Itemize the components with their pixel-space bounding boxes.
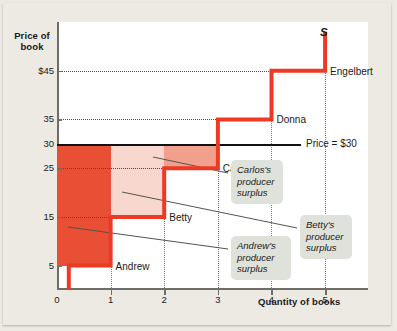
figure-root: Price ofbook Quantity of books $45353025… [0,0,397,331]
gridline-h-35 [57,119,218,120]
y-tick-35: 35 [12,113,54,124]
y-tick-mark [57,168,62,170]
y-axis-title: Price ofbook [10,30,54,52]
surplus-region-andrew [57,144,111,266]
point-label-andrew: Andrew [116,261,150,272]
gridline-h-25 [57,168,164,169]
y-tick-mark [57,119,62,121]
point-label-betty: Betty [169,212,192,223]
gridline-v-1 [111,266,112,290]
y-tick-label: 15 [18,211,54,222]
y-tick-label: 35 [18,113,54,124]
x-tick-mark [325,290,327,295]
gridline-h-45 [57,71,271,72]
x-tick-1: 1 [101,294,121,305]
x-tick-mark [218,290,220,295]
callout-carlos-surplus: Carlos's producer surplus [231,160,283,204]
y-tick-45: $45 [12,65,54,76]
x-tick-0: 0 [47,294,67,305]
point-label-donna: Donna [276,114,305,125]
y-tick-mark [57,266,62,268]
y-tick-label: 25 [18,162,54,173]
y-tick-label: 5 [18,260,54,271]
surplus-region-carlos [164,144,218,168]
x-tick-mark [271,290,273,295]
supply-curve-label: S [320,26,328,38]
callout-andrew-surplus: Andrew's producer surplus [231,236,291,280]
y-tick-mark [57,217,62,219]
y-tick-label: 30 [18,138,54,149]
y-tick-mark [57,71,62,73]
x-tick-2: 2 [154,294,174,305]
gridline-v-3 [218,168,219,290]
y-tick-30: 30 [12,138,54,149]
surplus-region-betty [111,144,165,217]
market-price-label: Price = $30 [306,138,357,149]
point-label-engelbert: Engelbert [330,66,373,77]
y-tick-label: $45 [18,65,54,76]
y-tick-5: 5 [12,260,54,271]
y-tick-15: 15 [12,211,54,222]
x-tick-mark [111,290,113,295]
callout-betty-surplus: Betty's producer surplus [300,215,352,259]
market-price-line [57,144,301,146]
x-tick-mark [164,290,166,295]
y-tick-25: 25 [12,162,54,173]
gridline-v-2 [164,217,165,290]
x-tick-3: 3 [208,294,228,305]
x-tick-5: 5 [315,294,335,305]
gridline-h-15 [57,217,111,218]
x-tick-4: 4 [261,294,281,305]
